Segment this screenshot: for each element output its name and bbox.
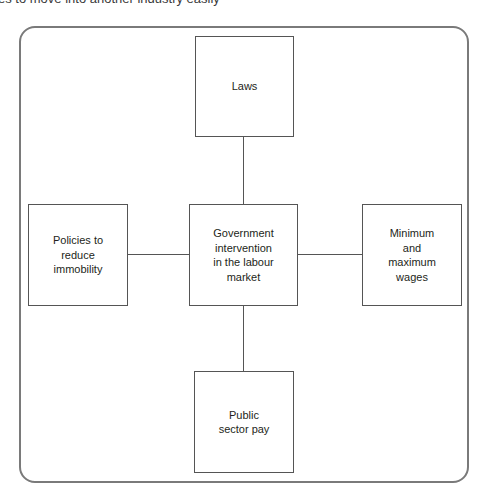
center-node-label: Government intervention in the labour ma…	[213, 226, 274, 284]
node-wages-label: Minimum and maximum wages	[388, 226, 436, 284]
node-public-sector-pay-label: Public sector pay	[219, 408, 270, 437]
node-laws: Laws	[195, 36, 294, 137]
connector-top	[243, 136, 244, 204]
node-public-sector-pay: Public sector pay	[194, 371, 294, 473]
node-laws-label: Laws	[232, 79, 258, 94]
connector-left	[127, 254, 189, 255]
connector-right	[297, 254, 362, 255]
center-node-government-intervention: Government intervention in the labour ma…	[189, 204, 298, 306]
node-policies-label: Policies to reduce immobility	[53, 233, 103, 277]
preceding-text-fragment: es to move into another industry easily	[0, 0, 220, 6]
node-policies-reduce-immobility: Policies to reduce immobility	[28, 204, 128, 306]
connector-bottom	[243, 305, 244, 371]
node-minimum-maximum-wages: Minimum and maximum wages	[362, 204, 462, 306]
